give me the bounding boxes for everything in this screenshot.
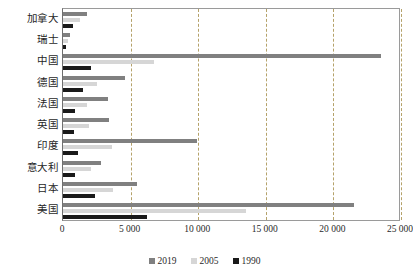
legend-swatch-icon	[191, 258, 197, 264]
bar-group	[63, 158, 399, 179]
bar-1990	[63, 66, 91, 70]
x-axis-tick-labels: 05 00010 00015 00020 00025 000	[0, 223, 409, 239]
legend-label: 1990	[242, 256, 261, 266]
legend-swatch-icon	[149, 258, 155, 264]
bar-2019	[63, 76, 125, 80]
y-axis-label: 德国	[37, 77, 58, 88]
bar-group	[63, 52, 399, 73]
y-axis-label: 印度	[37, 140, 58, 151]
bar-group	[63, 179, 399, 200]
bar-2019	[63, 182, 137, 186]
bar-1990	[63, 109, 75, 113]
bar-2019	[63, 139, 197, 143]
bar-1990	[63, 130, 74, 134]
gridline-25000	[401, 9, 402, 220]
bar-2019	[63, 54, 381, 58]
bar-2005	[63, 188, 113, 192]
y-axis-category-labels: 加拿大瑞士中国德国法国英国印度意大利日本美国	[0, 8, 58, 221]
bar-2005	[63, 167, 91, 171]
bar-2019	[63, 161, 101, 165]
y-axis-label: 日本	[37, 183, 58, 194]
bar-1990	[63, 194, 95, 198]
y-axis-label: 英国	[37, 119, 58, 130]
legend-label: 2019	[158, 256, 177, 266]
bar-2005	[63, 60, 154, 64]
x-axis-tick-label: 15 000	[252, 223, 278, 235]
plot-area	[62, 8, 400, 221]
bar-1990	[63, 45, 66, 49]
chart-legend: 201920051990	[0, 256, 409, 266]
legend-item[interactable]: 1990	[233, 256, 261, 266]
bar-2005	[63, 145, 112, 149]
bar-group	[63, 94, 399, 115]
bar-2019	[63, 33, 70, 37]
y-axis-label: 美国	[37, 204, 58, 215]
bar-1990	[63, 173, 75, 177]
bar-1990	[63, 151, 78, 155]
legend-swatch-icon	[233, 258, 239, 264]
bar-group	[63, 30, 399, 51]
bar-group	[63, 137, 399, 158]
bar-2019	[63, 97, 108, 101]
bar-2019	[63, 203, 354, 207]
bar-2005	[63, 124, 89, 128]
y-axis-label: 意大利	[27, 162, 58, 173]
x-axis-tick-label: 10 000	[184, 223, 210, 235]
x-axis-tick-label: 0	[60, 223, 65, 235]
bar-2019	[63, 118, 109, 122]
bar-group	[63, 9, 399, 30]
legend-item[interactable]: 2005	[191, 256, 219, 266]
bar-1990	[63, 215, 147, 219]
bar-group	[63, 116, 399, 137]
bar-2005	[63, 103, 87, 107]
x-axis-tick-label: 25 000	[387, 223, 413, 235]
bar-group	[63, 73, 399, 94]
y-axis-label: 法国	[37, 98, 58, 109]
bar-2005	[63, 209, 246, 213]
bar-2005	[63, 18, 80, 22]
bar-group	[63, 201, 399, 222]
legend-item[interactable]: 2019	[149, 256, 177, 266]
x-axis-tick-label: 20 000	[319, 223, 345, 235]
y-axis-label: 加拿大	[27, 13, 58, 24]
bar-2005	[63, 82, 97, 86]
y-axis-label: 中国	[37, 55, 58, 66]
bar-2019	[63, 12, 87, 16]
bar-2005	[63, 39, 68, 43]
legend-label: 2005	[200, 256, 219, 266]
bar-1990	[63, 24, 73, 28]
bar-1990	[63, 88, 83, 92]
y-axis-label: 瑞士	[37, 34, 58, 45]
x-axis-tick-label: 5 000	[119, 223, 140, 235]
